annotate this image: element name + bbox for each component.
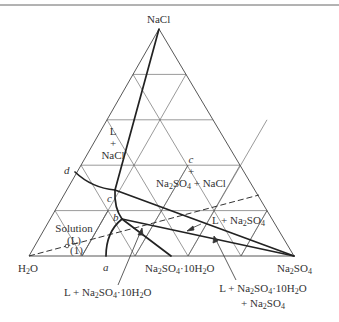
- point-label-b: b: [113, 211, 119, 223]
- point-label-1: (1): [70, 244, 83, 256]
- region-label-l-decahydrate: L + Na2SO4·10H2O: [64, 286, 151, 298]
- point-label-a: a: [103, 261, 109, 273]
- curve-b-a: [106, 219, 122, 256]
- point-label-d: d: [64, 164, 70, 176]
- region-label-three-phase: c + Na2SO4 + NaCl: [150, 153, 232, 189]
- point-label-c: c: [107, 192, 112, 204]
- curve-d-c: [75, 172, 115, 190]
- vertex-label-nacl: NaCl: [147, 13, 170, 25]
- vertex-label-h2o: H2O: [18, 262, 38, 274]
- region-label-l-decahydrate-na2so4: L + Na2SO4·10H2O + Na2SO4: [215, 282, 311, 309]
- point-label-decahydrate: Na2SO4·10H2O: [145, 262, 214, 274]
- region-label-l-na2so4: L + Na2SO4: [212, 214, 265, 226]
- vertex-label-na2so4: Na2SO4: [277, 262, 312, 274]
- region-label-l-nacl: L + NaCl: [95, 125, 131, 161]
- region-label-solution: Solution (L): [52, 222, 96, 246]
